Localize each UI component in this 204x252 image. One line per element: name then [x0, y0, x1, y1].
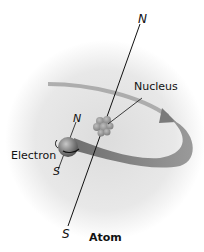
- electron-label: Electron: [11, 150, 56, 161]
- electron-sphere: [58, 137, 78, 157]
- atom-diagram: N Nucleus N Electron S S Atom: [0, 0, 204, 252]
- background-glow: [5, 40, 204, 240]
- diagram-title: Atom: [89, 232, 122, 243]
- electron-south-label: S: [53, 166, 60, 177]
- electron-north-label: N: [73, 113, 81, 124]
- axis-south-label: S: [62, 228, 70, 240]
- nucleus-label: Nucleus: [134, 81, 178, 92]
- atom-illustration: [0, 0, 204, 252]
- axis-north-label: N: [138, 13, 147, 25]
